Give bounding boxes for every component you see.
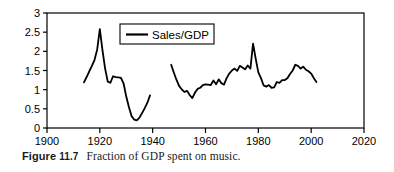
x-axis-ticks	[47, 128, 364, 133]
y-tick-label-1: 1	[34, 84, 40, 96]
y-axis-tick-labels: 00.511.522.53	[25, 7, 40, 134]
x-axis-tick-labels: 1900192019401960198020002020	[35, 135, 376, 146]
y-tick-label-3: 3	[34, 7, 40, 19]
caption-figure-number: 11.7	[59, 151, 78, 162]
y-tick-label-1.5: 1.5	[25, 65, 40, 77]
x-tick-label-1960: 1960	[193, 135, 217, 146]
legend-label-sales-gdp: Sales/GDP	[152, 29, 209, 41]
y-tick-label-0: 0	[34, 122, 40, 134]
y-tick-label-2: 2	[34, 45, 40, 57]
x-tick-label-1940: 1940	[140, 135, 164, 146]
figure-container: 00.511.522.53 19001920194019601980200020…	[0, 0, 394, 172]
chart-legend: Sales/GDP	[120, 24, 214, 44]
x-tick-label-1920: 1920	[88, 135, 112, 146]
line-chart-svg: 00.511.522.53 19001920194019601980200020…	[0, 0, 394, 146]
x-tick-label-2020: 2020	[352, 135, 376, 146]
x-tick-label-1980: 1980	[246, 135, 270, 146]
caption-text: Fraction of GDP spent on music.	[87, 150, 241, 162]
figure-caption: Figure 11.7 Fraction of GDP spent on mus…	[22, 150, 382, 162]
x-tick-label-2000: 2000	[299, 135, 323, 146]
x-tick-label-1900: 1900	[35, 135, 59, 146]
y-tick-label-0.5: 0.5	[25, 103, 40, 115]
chart-plot-area: 00.511.522.53 19001920194019601980200020…	[0, 0, 394, 146]
y-tick-label-2.5: 2.5	[25, 26, 40, 38]
caption-figure-word: Figure	[22, 150, 56, 162]
